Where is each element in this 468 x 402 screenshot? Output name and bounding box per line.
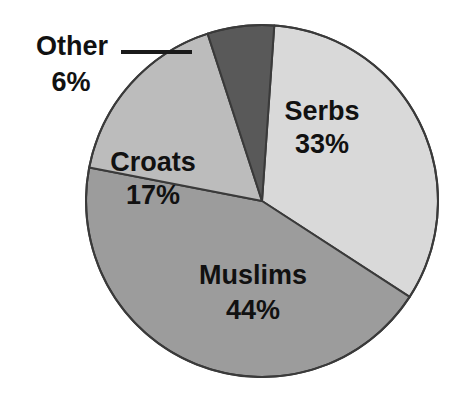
slice-label-other-value: 6%	[51, 67, 90, 97]
pie-chart-figure: Serbs 33% Muslims 44% Croats 17% Other 6…	[0, 0, 468, 402]
slice-label-serbs-name: Serbs	[284, 96, 359, 126]
slice-label-croats-name: Croats	[110, 147, 196, 177]
slice-label-muslims-name: Muslims	[199, 260, 307, 290]
slice-label-muslims-value: 44%	[226, 295, 280, 325]
pie-chart-canvas: Serbs 33% Muslims 44% Croats 17% Other 6…	[0, 0, 468, 402]
slice-label-croats-value: 17%	[126, 180, 180, 210]
slice-label-serbs-value: 33%	[295, 129, 349, 159]
slice-label-other-name: Other	[36, 31, 109, 61]
